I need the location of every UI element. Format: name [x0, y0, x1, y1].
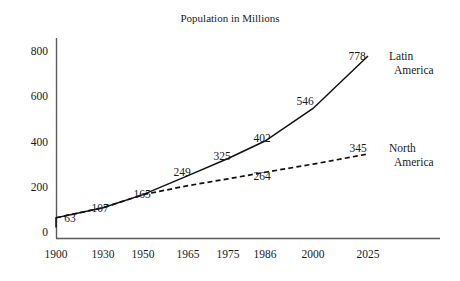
data-point-labels: 63107165249325402546778264345 [64, 50, 367, 224]
y-tick-label: 0 [42, 226, 48, 238]
point-value-label: 264 [253, 170, 271, 182]
x-tick-label: 1950 [132, 248, 155, 260]
chart-title: Population in Millions [180, 12, 279, 24]
point-value-label: 249 [173, 166, 191, 178]
x-tick-label: 1986 [254, 248, 277, 260]
legend-label-line1: Latin [389, 50, 414, 62]
point-value-label: 345 [349, 142, 367, 154]
x-tick-label: 1900 [45, 248, 68, 260]
x-tick-label: 2025 [357, 248, 380, 260]
x-tick-label: 1965 [177, 248, 200, 260]
point-value-label: 546 [296, 95, 314, 107]
legend-label-line1: North [389, 142, 416, 154]
legend-label-line2: America [394, 64, 434, 76]
point-value-label: 325 [213, 150, 231, 162]
point-value-label: 107 [91, 202, 109, 214]
point-value-label: 165 [133, 188, 151, 200]
y-tick-label: 800 [31, 45, 49, 57]
x-tick-label: 1930 [92, 248, 115, 260]
legend-label-line2: America [394, 156, 434, 168]
x-tick-label: 1975 [217, 248, 240, 260]
y-tick-label: 600 [31, 90, 49, 102]
x-axis-tick-labels: 19001930195019651975198620002025 [45, 248, 380, 260]
series-legend: LatinAmericaNorthAmerica [389, 50, 434, 168]
y-tick-label: 400 [31, 136, 49, 148]
chart-container: Population in Millions 0200400600800 190… [0, 0, 460, 281]
point-value-label: 778 [348, 50, 366, 62]
point-value-label: 402 [253, 132, 271, 144]
y-axis-tick-labels: 0200400600800 [31, 45, 49, 238]
population-line-chart: Population in Millions 0200400600800 190… [0, 0, 460, 281]
point-value-label: 63 [64, 212, 76, 224]
x-tick-label: 2000 [302, 248, 325, 260]
y-tick-label: 200 [31, 181, 49, 193]
